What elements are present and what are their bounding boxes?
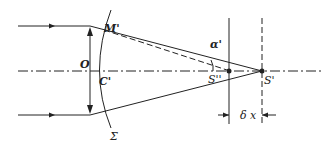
arrow-icon xyxy=(49,24,55,29)
arrow-icon xyxy=(262,113,268,118)
label-delta-x: δ x xyxy=(240,109,257,122)
label-M-prime: M' xyxy=(103,22,120,35)
label-C-prime: C' xyxy=(99,75,111,88)
label-sigma: Σ xyxy=(109,130,118,143)
optics-diagram: M' O C' Σ α' S'' S' δ x xyxy=(0,0,333,149)
ray-bottom-to-focus xyxy=(90,71,262,115)
arrow-up-icon xyxy=(87,27,93,36)
label-alpha-prime: α' xyxy=(210,38,222,51)
paraxial-focus-point xyxy=(227,69,232,74)
arrow-down-icon xyxy=(87,105,93,114)
arrow-icon xyxy=(223,113,229,118)
label-S-prime: S' xyxy=(264,74,275,87)
arrow-icon xyxy=(49,113,55,118)
label-O: O xyxy=(80,58,90,71)
label-S-double-prime: S'' xyxy=(208,73,222,86)
focus-point xyxy=(260,69,265,74)
